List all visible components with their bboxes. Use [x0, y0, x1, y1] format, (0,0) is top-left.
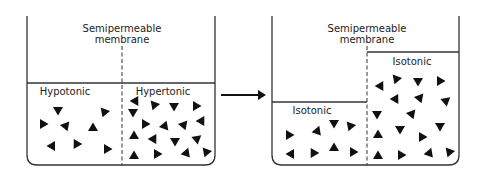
- membrane-label-line1: Semipermeable: [328, 23, 407, 34]
- before-beaker: Semipermeable membrane Hypotonic Hyperto…: [27, 16, 215, 165]
- membrane-label-line2: membrane: [340, 34, 395, 45]
- solute-particles-isotonic-right: [372, 75, 455, 161]
- hypertonic-label: Hypertonic: [136, 86, 191, 97]
- after-beaker: Semipermeable membrane Isotonic Isotonic: [272, 16, 459, 165]
- solute-particles-hypotonic: [40, 107, 113, 154]
- membrane-label-line2: membrane: [95, 34, 150, 45]
- membrane-label-line1: Semipermeable: [83, 23, 162, 34]
- isotonic-label-right: Isotonic: [393, 56, 432, 67]
- osmosis-diagram: Semipermeable membrane Hypotonic Hyperto…: [0, 0, 481, 176]
- right-arrow-icon: [221, 90, 266, 100]
- solute-particles-isotonic-left: [286, 120, 359, 159]
- isotonic-label-left: Isotonic: [293, 105, 332, 116]
- hypotonic-label: Hypotonic: [40, 86, 91, 97]
- solute-particles-hypertonic: [128, 94, 212, 161]
